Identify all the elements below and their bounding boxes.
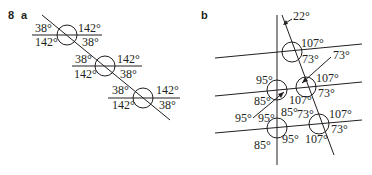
angle-label: 142°	[78, 21, 101, 35]
part-b-label: b	[201, 9, 208, 21]
angle-label: 107°	[301, 36, 324, 50]
angle-label: 38°	[75, 52, 92, 66]
angle-label: 22°	[293, 9, 310, 23]
arrowhead-icon	[278, 92, 284, 98]
angle-label: 142°	[74, 67, 97, 81]
angle-label: 95°	[235, 111, 252, 125]
angle-label: 38°	[159, 98, 176, 112]
angles-diagram: 8 a b 38° 142° 142° 38° 38° 142° 142° 38…	[0, 0, 372, 175]
angle-label: 95°	[256, 73, 273, 87]
angle-label: 38°	[82, 35, 99, 49]
angle-label: 142°	[112, 98, 135, 112]
angle-label: 142°	[35, 35, 58, 49]
angle-label: 85°	[281, 105, 298, 119]
angle-label: 73°	[297, 107, 314, 121]
angle-label: 142°	[117, 52, 140, 66]
part-b-diagram: 22° 107° 73° 73° 95° 85° 107° 73° 107° 9…	[215, 9, 362, 165]
question-number: 8	[8, 9, 14, 21]
angle-label: 107°	[316, 71, 339, 85]
angle-label: 38°	[112, 83, 129, 97]
angle-marker	[282, 42, 302, 62]
angle-label: 38°	[120, 67, 137, 81]
angle-label: 95°	[258, 111, 275, 125]
angle-label: 73°	[331, 122, 348, 136]
angle-label: 107°	[329, 107, 352, 121]
angle-label: 38°	[35, 21, 52, 35]
angle-label: 85°	[254, 138, 271, 152]
angle-label: 142°	[156, 83, 179, 97]
angle-label: 73°	[333, 48, 350, 62]
angle-label: 73°	[318, 86, 335, 100]
part-a-diagram: 38° 142° 142° 38° 38° 142° 142° 38° 38° …	[32, 15, 180, 120]
angle-label: 107°	[305, 132, 328, 146]
angle-label: 95°	[282, 132, 299, 146]
angle-label: 73°	[302, 52, 319, 66]
angle-label: 85°	[254, 94, 271, 108]
part-a-label: a	[21, 9, 28, 21]
